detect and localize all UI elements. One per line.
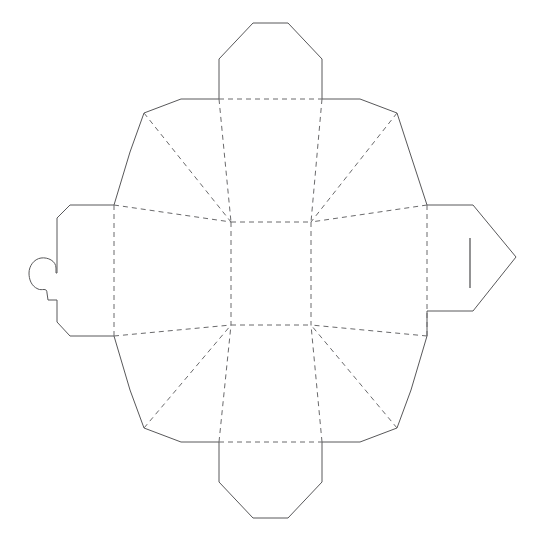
- paper-background: [0, 0, 540, 542]
- box-dieline-drawing: [0, 0, 540, 542]
- dieline-canvas: [0, 0, 540, 542]
